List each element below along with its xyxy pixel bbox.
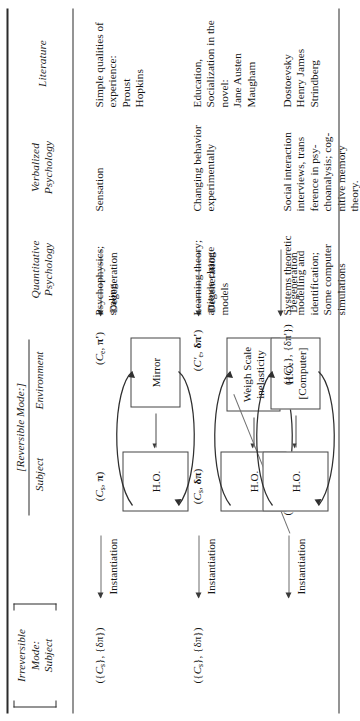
header-irreversible-line1: Irreversible Mode: (14, 629, 40, 682)
table-header: Irreversible Mode: Subject [Reversible M… (8, 8, 72, 713)
header-subject: Subject (32, 431, 44, 517)
math-mid: }, { (190, 647, 202, 663)
row-3-literature: Dostoevsky Henry James Strindberg (280, 7, 320, 107)
row-1-environment-box: Mirror (130, 337, 180, 407)
row-1-reversible-state: (Cs, π) (92, 443, 108, 529)
math-close: }) (92, 627, 104, 636)
header-literature-line1: Literature (35, 40, 47, 87)
math-c: C (190, 493, 202, 500)
header-verbalized-line1: Verbalized (28, 142, 40, 191)
row-1-literature: Simple qualities of experience: Proust H… (92, 11, 146, 107)
math-close: ) (92, 331, 104, 335)
header-verbalized-line2: Psychology (41, 140, 53, 194)
row-2-literature: Education, Socialization in the novel: J… (190, 9, 257, 107)
row-3-subject-box: H.O. (262, 451, 328, 511)
math-c: C (92, 353, 104, 360)
row-1-link-tick (155, 413, 156, 447)
row-3-link-tick (295, 415, 296, 447)
header-quantitative-line1: Quantitative (28, 240, 40, 298)
math-open: ({ (190, 674, 202, 683)
math-sub: e (97, 350, 106, 353)
math-open: ({ (280, 375, 292, 384)
row-1-block-diagram: H.O. Mirror (118, 327, 192, 517)
header-environment: Environment (32, 337, 44, 423)
header-verbalized: Verbalized Psychology (28, 121, 54, 213)
row-3-verbalized: Social interaction interviews, trans fer… (280, 111, 360, 211)
header-irreversible-line2: Subject (41, 638, 53, 671)
math-close: ) (190, 329, 202, 333)
math-delta: δπ (92, 636, 104, 647)
header-quantitative: Quantitative Psychology (28, 223, 54, 315)
instantiation-arrow-1 (100, 535, 101, 597)
header-group-irreversible: Irreversible Mode: Subject (14, 603, 55, 707)
table: Irreversible Mode: Subject [Reversible M… (6, 8, 339, 713)
header-reversible-underline (28, 339, 29, 515)
instantiation-label-2: Instantiation (204, 531, 216, 601)
math-c: C' (190, 357, 202, 367)
row-2-degenerate-state: (C'e, δπ') (190, 313, 206, 387)
row-1-subject-box: H.O. (122, 451, 188, 511)
math-open: ( (190, 500, 202, 504)
math-c: C (92, 666, 104, 673)
instantiation-arrow-3 (288, 535, 289, 597)
row-1-verbalized: Sensation (92, 115, 105, 211)
math-open: ( (92, 497, 104, 501)
math-mid: , (92, 481, 104, 487)
header-quantitative-line2: Psychology (41, 242, 53, 296)
math-mid: , (92, 344, 104, 350)
math-delta: δπ (190, 636, 202, 647)
row-2-verbalized: Changing behavior experimentally (190, 113, 217, 211)
math-open: ({ (92, 674, 104, 683)
math-mid: }, { (92, 647, 104, 663)
math-close: }) (280, 324, 292, 333)
row-2-quantitative: Learning theory; attitude change models (190, 217, 230, 315)
instantiation-label-1: Instantiation (106, 531, 118, 601)
row-3-quantitative: Systems theoretic modelling and identifi… (280, 215, 347, 315)
math-sym: δπ (190, 472, 202, 484)
row-3-degenerate-state: ({C'e}, {δπ'}) (280, 311, 296, 397)
header-group-reversible: [Reversible Mode:] Subject Environment (12, 329, 44, 525)
row-1-irreversible-state: ({Cs}, {δπ}) (92, 603, 108, 707)
row-2-irreversible-state: ({Cs}, {δπ}) (190, 603, 206, 707)
math-sym: π (92, 475, 104, 481)
math-sub: e (285, 362, 294, 365)
header-literature: Literature (35, 17, 48, 109)
math-close: ) (92, 471, 104, 475)
math-sym: δπ' (190, 333, 202, 348)
instantiation-label-3: Instantiation (294, 531, 306, 601)
math-delta: δπ' (280, 333, 292, 346)
math-c: C (92, 490, 104, 497)
math-c: C' (280, 365, 292, 375)
math-mid: , (190, 348, 202, 354)
header-reversible-title: [Reversible Mode:] (12, 329, 26, 525)
row-2-reversible-state: (Cs, δπ) (190, 443, 206, 529)
math-close: ) (190, 468, 202, 472)
math-mid: , (190, 484, 202, 490)
math-sym: π' (92, 335, 104, 344)
math-c: C (190, 666, 202, 673)
instantiation-arrow-2 (198, 535, 199, 597)
math-mid: }, { (280, 346, 292, 362)
math-close: }) (190, 627, 202, 636)
row-1-degenerate-state: (Ce, π') (92, 313, 108, 383)
row-1-quantitative: Psychophysics; scaling (92, 219, 119, 315)
